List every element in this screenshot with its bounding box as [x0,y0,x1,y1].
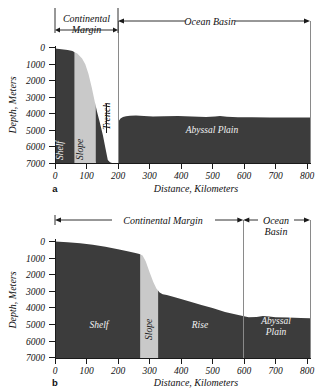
y-axis-title-b: Depth, Meters [7,271,18,329]
x-tick-label-b-4: 400 [174,366,189,376]
y-tick-label-b-7: 7000 [26,353,45,363]
panel-b-chart: 0 1000 2000 3000 4000 5000 6000 7000 0 1… [0,195,325,388]
x-tick-label-a-8: 800 [300,171,315,181]
bracket-continental-margin-a: Continental Margin [55,8,118,35]
x-ticks-b [55,359,307,365]
bracket-label-a-0-line1: Continental [63,13,110,24]
x-tick-label-a-3: 300 [141,171,157,181]
y-tick-label-b-3: 3000 [25,287,45,297]
bracket-label-a-1-line1: Ocean Basin [184,16,235,27]
y-tick-label-b-6: 6000 [26,337,45,347]
region-label-slope-b: Slope [144,319,154,340]
y-tick-label-b-0: 0 [40,237,45,247]
x-ticks-a [55,164,307,170]
y-tick-label-a-3: 3000 [25,93,45,103]
x-tick-label-b-7: 700 [268,366,283,376]
region-abyssal-plain-a [112,115,310,163]
x-tick-label-b-6: 600 [237,366,252,376]
region-label-abyssal-plain-b-line2: Plain [265,327,287,337]
x-tick-label-a-5: 500 [205,171,220,181]
y-ticks-b [49,242,55,358]
region-label-slope-a: Slope [75,139,85,160]
region-label-abyssal-plain-b-line1: Abyssal [260,316,291,326]
bracket-label-a-0-line2: Margin [71,24,102,35]
y-tick-label-b-1: 1000 [26,254,45,264]
panel-a: 0 1000 2000 3000 4000 5000 6000 7000 0 1… [0,0,325,195]
x-tick-label-b-1: 100 [79,366,94,376]
bracket-label-b-1-line2: Basin [265,226,288,237]
x-axis-title-b: Distance, Kilometers [153,377,239,388]
x-tick-label-b-0: 0 [53,366,58,376]
y-tick-label-a-1: 1000 [26,60,45,70]
y-tick-label-a-2: 2000 [26,76,45,86]
region-label-abyssal-plain-a: Abyssal Plain [185,125,239,135]
panel-letter-b: b [52,377,58,388]
region-label-shelf-b: Shelf [90,320,110,330]
y-tick-label-a-6: 6000 [26,142,45,152]
x-tick-label-a-2: 200 [111,171,126,181]
x-tick-label-b-3: 300 [141,366,157,376]
panel-b: 0 1000 2000 3000 4000 5000 6000 7000 0 1… [0,195,325,388]
bracket-continental-margin-b: Continental Margin [55,215,243,226]
y-tick-label-a-4: 4000 [26,109,45,119]
y-axis-title-a: Depth, Meters [7,76,18,134]
y-tick-label-a-5: 5000 [26,126,45,136]
y-tick-label-b-4: 4000 [26,303,45,313]
x-tick-label-a-0: 0 [53,171,58,181]
bracket-label-b-1-line1: Ocean [263,215,289,226]
x-tick-label-a-4: 400 [174,171,189,181]
x-tick-label-b-8: 800 [300,366,315,376]
y-tick-label-b-5: 5000 [26,320,45,330]
region-label-rise-b: Rise [191,320,208,330]
bracket-ocean-basin-a: Ocean Basin [118,16,310,27]
x-tick-label-a-6: 600 [237,171,252,181]
bracket-ocean-basin-b: Ocean Basin [243,215,310,238]
y-tick-label-a-7: 7000 [26,159,45,169]
x-axis-title-a: Distance, Kilometers [153,183,239,194]
panel-a-chart: 0 1000 2000 3000 4000 5000 6000 7000 0 1… [0,0,325,195]
ocean-floor-profile-figure: 0 1000 2000 3000 4000 5000 6000 7000 0 1… [0,0,325,388]
panel-letter-a: a [52,183,58,194]
x-tick-label-a-1: 100 [79,171,94,181]
x-tick-label-b-5: 500 [205,366,220,376]
y-tick-label-a-0: 0 [40,43,45,53]
bracket-label-b-0-line1: Continental Margin [123,215,202,226]
region-label-shelf-a: Shelf [55,140,65,160]
y-tick-label-b-2: 2000 [26,270,45,280]
x-tick-label-a-7: 700 [268,171,283,181]
x-tick-label-b-2: 200 [111,366,126,376]
